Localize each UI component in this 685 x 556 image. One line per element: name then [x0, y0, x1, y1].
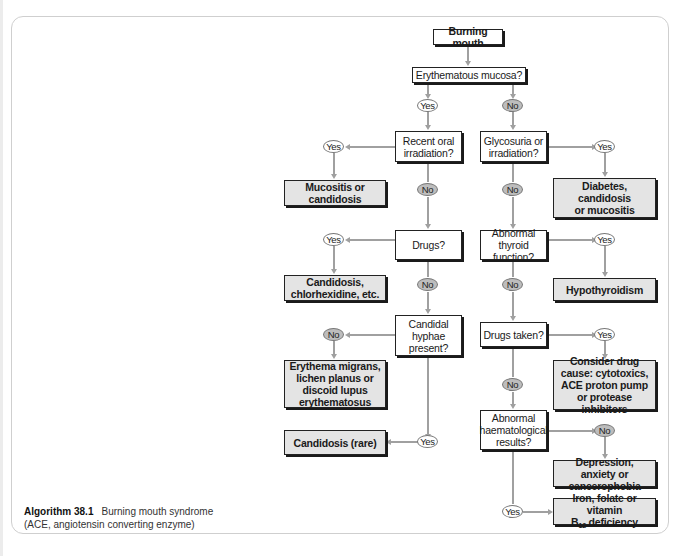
result-erythema-migrans-lichen-planus-lupus: Erythema migrans, lichen planus or disco… [284, 360, 386, 408]
result-depression-anxiety-cancerophobia: Depression, anxiety or cancerophobia [553, 460, 656, 487]
answer-yes-oval: Yes [594, 328, 615, 341]
caption-title: Burning mouth syndrome [101, 506, 213, 517]
caption-label: Algorithm 38.1 [24, 506, 93, 517]
answer-yes-oval: Yes [594, 140, 615, 153]
caption-note: (ACE, angiotensin converting enzyme) [24, 518, 213, 531]
result-iron-line1: Iron, folate or vitamin [554, 492, 655, 516]
answer-no-oval: No [417, 183, 438, 196]
question-recent-oral-irradiation: Recent oral irradiation? [395, 131, 462, 162]
result-iron-folate-b12-deficiency: Iron, folate or vitamin B12 deficiency [553, 498, 656, 525]
answer-no-oval: No [502, 99, 523, 112]
result-consider-drug-cause: Consider drug cause: cytotoxics, ACE pro… [553, 360, 656, 410]
start-node-burning-mouth: Burning mouth [433, 29, 503, 45]
question-drugs: Drugs? [395, 230, 462, 260]
page-edge [0, 0, 3, 556]
question-candidal-hyphae-present: Candidal hyphae present? [395, 315, 462, 356]
answer-yes-oval: Yes [417, 99, 438, 112]
question-abnormal-thyroid-function: Abnormal thyroid function? [480, 230, 547, 260]
answer-yes-oval: Yes [594, 233, 615, 246]
answer-no-oval: No [323, 328, 344, 341]
answer-no-oval: No [502, 378, 523, 391]
answer-no-oval: No [594, 424, 615, 437]
answer-yes-oval: Yes [323, 140, 344, 153]
answer-yes-oval: Yes [417, 435, 438, 448]
answer-no-oval: No [417, 278, 438, 291]
result-iron-line2: B12 deficiency [571, 516, 638, 532]
answer-yes-oval: Yes [502, 505, 523, 518]
result-candidosis-rare: Candidosis (rare) [284, 430, 386, 455]
result-diabetes-candidosis-mucositis: Diabetes, candidosis or mucositis [553, 178, 656, 218]
question-abnormal-haematological-results: Abnormal haematological results? [480, 410, 547, 450]
question-glycosuria-or-irradiation: Glycosuria or irradiation? [480, 131, 547, 162]
answer-no-oval: No [502, 183, 523, 196]
result-hypothyroidism: Hypothyroidism [553, 278, 656, 301]
question-drugs-taken: Drugs taken? [480, 322, 547, 347]
result-mucositis-or-candidosis: Mucositis or candidosis [284, 180, 386, 206]
result-candidosis-chlorhexidine: Candidosis, chlorhexidine, etc. [284, 275, 386, 301]
figure-caption: Algorithm 38.1Burning mouth syndrome (AC… [24, 505, 213, 531]
question-erythematous-mucosa: Erythematous mucosa? [412, 67, 526, 83]
answer-no-oval: No [502, 278, 523, 291]
answer-yes-oval: Yes [323, 233, 344, 246]
